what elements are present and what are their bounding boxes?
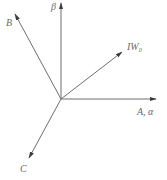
vector-C-phase: C (20, 99, 61, 174)
vector-IW0: IW0 (61, 41, 142, 99)
B-phase-label: B (6, 17, 12, 28)
vector-beta-axis: β (50, 1, 61, 99)
IW0-label: IW0 (126, 41, 142, 53)
A-alpha-axis-label: A, α (136, 106, 154, 117)
beta-axis-label: β (50, 1, 56, 12)
IW0-label-subscript: 0 (139, 47, 142, 53)
vector-diagram: β B IW0 A, α C (0, 0, 167, 180)
vector-B-phase: B (6, 14, 61, 99)
C-phase-label: C (20, 163, 27, 174)
vector-A-alpha-axis: A, α (61, 99, 156, 117)
